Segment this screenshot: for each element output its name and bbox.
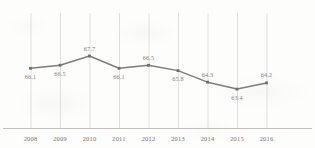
- year-label-2015: 2015: [230, 136, 244, 142]
- year-label-2010: 2010: [83, 136, 97, 142]
- value-label-2011: 66.1: [113, 74, 124, 80]
- year-label-2013: 2013: [171, 136, 185, 142]
- data-point-2008: [29, 67, 32, 70]
- value-label-2016: 64.2: [261, 72, 272, 78]
- value-label-2014: 64.3: [202, 72, 213, 78]
- year-label-2011: 2011: [112, 136, 125, 142]
- data-point-2010: [88, 55, 91, 58]
- value-label-2012: 66.5: [143, 55, 154, 61]
- data-point-2016: [265, 82, 268, 85]
- data-point-2011: [118, 67, 121, 70]
- vertical-gridlines: [31, 13, 267, 129]
- year-label-2009: 2009: [53, 136, 67, 142]
- year-label-2014: 2014: [201, 136, 215, 142]
- data-point-2012: [147, 64, 150, 67]
- year-label-2012: 2012: [142, 136, 156, 142]
- data-point-2015: [236, 88, 239, 91]
- data-point-2014: [206, 81, 209, 84]
- value-label-2013: 65.8: [172, 76, 183, 82]
- line-chart: 66.166.567.766.166.565.864.363.464.2 200…: [0, 0, 315, 148]
- year-label-2008: 2008: [24, 136, 38, 142]
- year-label-2016: 2016: [260, 136, 274, 142]
- value-label-2015: 63.4: [231, 95, 242, 101]
- data-point-2009: [59, 64, 62, 67]
- value-label-2008: 66.1: [25, 74, 36, 80]
- value-label-2010: 67.7: [84, 46, 95, 52]
- series-line: [31, 56, 267, 89]
- data-point-2013: [177, 69, 180, 72]
- value-label-2009: 66.5: [54, 71, 65, 77]
